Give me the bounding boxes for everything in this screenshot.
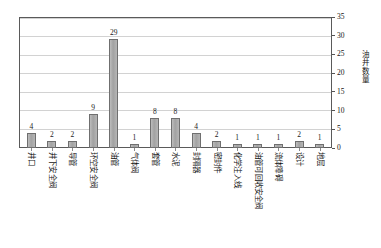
bar — [68, 141, 77, 148]
y-axis: 35302520151050 — [332, 17, 354, 148]
y-axis-tick-label: 25 — [337, 50, 345, 58]
tick-mark — [155, 148, 156, 151]
bar — [295, 141, 304, 148]
bar-group: 2 — [289, 17, 310, 148]
tick-mark — [332, 148, 335, 149]
tick-mark — [72, 148, 73, 151]
bar-group: 2 — [62, 17, 83, 148]
bar-group: 2 — [206, 17, 227, 148]
x-axis-tick-label: 环空安全阀 — [89, 152, 97, 188]
bar-value-label: 4 — [194, 123, 198, 131]
x-label-slot: 油管 — [103, 152, 124, 244]
bar-group: 1 — [124, 17, 145, 148]
bar-group: 29 — [103, 17, 124, 148]
y-tick: 30 — [332, 31, 345, 41]
x-label-slot: 气体阀 — [124, 152, 145, 244]
x-axis-tick-label: 密封件 — [213, 152, 221, 174]
x-axis-tick-label: 套管 — [151, 152, 159, 166]
bar-group: 4 — [21, 17, 42, 148]
bar-value-label: 9 — [91, 104, 95, 112]
y-tick: 0 — [332, 143, 341, 153]
y-axis-tick-label: 35 — [337, 13, 345, 21]
y-axis-tick-label: 30 — [337, 32, 345, 40]
x-axis-tick-label: 气体阀 — [130, 152, 138, 174]
tick-mark — [114, 148, 115, 151]
bar-group: 1 — [248, 17, 269, 148]
bar — [89, 114, 98, 148]
tick-mark — [299, 148, 300, 151]
bar-value-label: 1 — [256, 134, 260, 142]
bars-container: 4229291884211121 — [19, 17, 332, 148]
bar — [212, 141, 221, 148]
bar-value-label: 1 — [132, 134, 136, 142]
x-label-slot: 油管可回收安全阀 — [248, 152, 269, 244]
bar-value-label: 29 — [110, 29, 118, 37]
y-tick: 25 — [332, 49, 345, 59]
bar-group: 4 — [186, 17, 207, 148]
x-axis-tick-label: 油管 — [110, 152, 118, 166]
x-axis-tick-label: 封隔器 — [192, 152, 200, 174]
y-tick: 5 — [332, 124, 341, 134]
x-label-slot: 水泥 — [165, 152, 186, 244]
tick-mark — [278, 148, 279, 151]
tick-mark — [332, 35, 335, 36]
x-axis-tick-label: 水泥 — [171, 152, 179, 166]
tick-mark — [332, 91, 335, 92]
bar-value-label: 8 — [174, 108, 178, 116]
tick-mark — [217, 148, 218, 151]
bar-value-label: 1 — [318, 134, 322, 142]
x-axis-tick-label: 井下安全阀 — [48, 152, 56, 188]
tick-mark — [31, 148, 32, 151]
x-label-slot: 井下安全阀 — [42, 152, 63, 244]
tick-mark — [175, 148, 176, 151]
y-axis-tick-label: 15 — [337, 88, 345, 96]
tick-mark — [93, 148, 94, 151]
x-axis-tick-label: 流体障碍 — [274, 152, 282, 181]
y-tick: 35 — [332, 12, 345, 22]
y-axis-tick-label: 10 — [337, 107, 345, 115]
x-axis-tick-label: 导管 — [68, 152, 76, 166]
tick-mark — [332, 110, 335, 111]
bar-value-label: 4 — [29, 123, 33, 131]
x-label-slot: 地层 — [309, 152, 330, 244]
bar-value-label: 2 — [297, 131, 301, 139]
tick-mark — [332, 129, 335, 130]
tick-mark — [332, 73, 335, 74]
y-tick: 20 — [332, 68, 345, 78]
tick-mark — [52, 148, 53, 151]
bar-group: 1 — [227, 17, 248, 148]
x-label-slot: 井口 — [21, 152, 42, 244]
y-axis-title: 油井数量 — [356, 50, 368, 84]
bar — [171, 118, 180, 148]
bar-chart: 4229291884211121 井口井下安全阀导管环空安全阀油管气体阀套管水泥… — [0, 0, 381, 248]
x-label-slot: 设计 — [289, 152, 310, 244]
x-label-slot: 密封件 — [206, 152, 227, 244]
x-axis-tick-label: 设计 — [295, 152, 303, 166]
bar-group: 1 — [268, 17, 289, 148]
x-label-slot: 流体障碍 — [268, 152, 289, 244]
x-axis-labels: 井口井下安全阀导管环空安全阀油管气体阀套管水泥封隔器密封件化学注入线油管可回收安… — [19, 152, 332, 244]
x-axis-tick-label: 井口 — [27, 152, 35, 166]
tick-mark — [258, 148, 259, 151]
x-label-slot: 封隔器 — [186, 152, 207, 244]
tick-mark — [237, 148, 238, 151]
y-axis-tick-label: 20 — [337, 69, 345, 77]
bar-group: 8 — [145, 17, 166, 148]
bar — [27, 133, 36, 148]
bar-value-label: 2 — [215, 131, 219, 139]
x-label-slot: 化学注入线 — [227, 152, 248, 244]
bar-group: 1 — [309, 17, 330, 148]
bar-value-label: 8 — [153, 108, 157, 116]
y-axis-tick-label: 5 — [337, 125, 341, 133]
bar-value-label: 2 — [50, 131, 54, 139]
x-axis-tick-label: 地层 — [316, 152, 324, 166]
bar-group: 2 — [42, 17, 63, 148]
tick-mark — [332, 54, 335, 55]
x-label-slot: 环空安全阀 — [83, 152, 104, 244]
x-axis-tick-label: 油管可回收安全阀 — [254, 152, 262, 210]
x-label-slot: 导管 — [62, 152, 83, 244]
x-label-slot: 套管 — [145, 152, 166, 244]
y-tick: 10 — [332, 106, 345, 116]
bar-group: 8 — [165, 17, 186, 148]
x-axis-tick-label: 化学注入线 — [233, 152, 241, 188]
